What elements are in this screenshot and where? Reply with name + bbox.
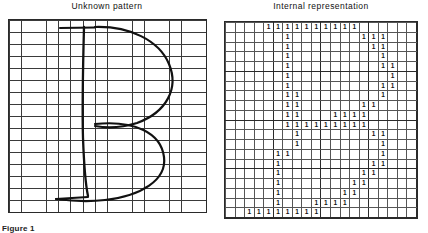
matrix-cell-off [311,159,321,169]
matrix-row: 111 [226,179,417,189]
matrix-cell-off [245,81,255,91]
matrix-cell-on: 1 [283,71,293,81]
matrix-cell-on: 1 [359,120,369,130]
matrix-cell-on: 1 [388,71,398,81]
matrix-cell-off [359,91,369,101]
matrix-cell-off [292,81,302,91]
matrix-cell-off [369,140,379,150]
matrix-cell-off [388,52,398,62]
matrix-cell-off [302,159,312,169]
matrix-cell-off [254,149,264,159]
matrix-cell-off [397,159,407,169]
matrix-cell-off [388,130,398,140]
matrix-cell-off [331,91,341,101]
matrix-row: 11 [226,52,417,62]
matrix-cell-off [264,169,274,179]
matrix-cell-off [388,198,398,208]
matrix-cell-on: 1 [292,120,302,130]
matrix-cell-off [235,179,245,189]
matrix-cell-off [273,91,283,101]
matrix-cell-on: 1 [378,42,388,52]
matrix-cell-off [283,159,293,169]
matrix-cell-off [331,188,341,198]
matrix-cell-off [340,91,350,101]
matrix-cell-off [235,101,245,111]
matrix-cell-off [273,52,283,62]
matrix-cell-off [226,23,236,33]
matrix-cell-off [350,101,360,111]
matrix-cell-off [264,81,274,91]
matrix-cell-off [245,149,255,159]
matrix-cell-off [254,62,264,72]
matrix-cell-off [369,62,379,72]
matrix-cell-off [369,52,379,62]
matrix-cell-off [264,71,274,81]
matrix-cell-off [311,81,321,91]
matrix-cell-off [350,32,360,42]
matrix-cell-off [378,179,388,189]
matrix-cell-off [350,42,360,52]
matrix-cell-off [397,81,407,91]
matrix-cell-off [397,149,407,159]
matrix-cell-off [226,91,236,101]
matrix-cell-off [283,198,293,208]
matrix-cell-off [302,62,312,72]
matrix-cell-off [388,32,398,42]
matrix-cell-off [397,169,407,179]
internal-representation-title: Internal representation [214,1,428,11]
matrix-cell-off [245,179,255,189]
matrix-cell-off [359,71,369,81]
matrix-cell-off [302,110,312,120]
matrix-cell-off [292,42,302,52]
matrix-cell-on: 1 [292,130,302,140]
matrix-row: 111111111 [226,120,417,130]
matrix-cell-off [369,149,379,159]
matrix-cell-off [407,101,417,111]
matrix-cell-on: 1 [378,32,388,42]
matrix-cell-off [340,62,350,72]
matrix-cell-off [302,149,312,159]
matrix-cell-on: 1 [331,110,341,120]
matrix-row: 11111 [226,198,417,208]
matrix-cell-off [226,62,236,72]
matrix-cell-off [245,91,255,101]
matrix-cell-on: 1 [311,120,321,130]
matrix-cell-off [369,71,379,81]
matrix-cell-off [273,140,283,150]
matrix-cell-off [407,169,417,179]
matrix-cell-on: 1 [378,52,388,62]
matrix-cell-off [264,120,274,130]
matrix-cell-off [321,149,331,159]
matrix-cell-off [245,198,255,208]
matrix-cell-off [292,198,302,208]
matrix-cell-off [331,52,341,62]
matrix-cell-on: 1 [273,208,283,218]
matrix-cell-off [226,120,236,130]
matrix-cell-off [397,71,407,81]
matrix-cell-off [321,188,331,198]
matrix-cell-off [302,140,312,150]
matrix-cell-off [235,159,245,169]
representation-matrix: 1111111111111111111111111111111111111111… [225,22,417,218]
matrix-cell-off [321,130,331,140]
matrix-cell-off [321,71,331,81]
matrix-cell-off [235,130,245,140]
matrix-cell-off [397,23,407,33]
matrix-cell-off [407,130,417,140]
matrix-cell-off [340,169,350,179]
matrix-cell-off [254,110,264,120]
matrix-cell-off [292,188,302,198]
matrix-cell-off [369,120,379,130]
matrix-cell-off [254,179,264,189]
matrix-cell-off [321,101,331,111]
matrix-cell-off [235,71,245,81]
matrix-cell-off [273,81,283,91]
matrix-cell-on: 1 [264,208,274,218]
matrix-cell-off [283,130,293,140]
matrix-cell-on: 1 [378,159,388,169]
matrix-cell-off [340,52,350,62]
matrix-cell-off [350,71,360,81]
matrix-cell-off [226,198,236,208]
matrix-cell-on: 1 [369,42,379,52]
matrix-cell-off [245,23,255,33]
